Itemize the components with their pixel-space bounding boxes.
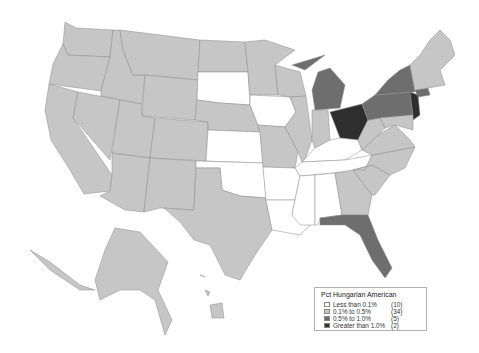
- state-new-england: [410, 30, 455, 90]
- state-alaska: [95, 228, 172, 335]
- legend-swatch: [324, 309, 330, 314]
- legend-swatch: [324, 323, 330, 328]
- legend-count: (2): [391, 322, 405, 329]
- legend-count: (5): [391, 315, 405, 322]
- state-kansas: [206, 130, 263, 163]
- state-wisconsin: [275, 65, 306, 97]
- state-washington: [63, 22, 113, 57]
- state-new-mexico: [144, 158, 196, 212]
- legend-item: 0.1% to 0.5% (34): [324, 308, 405, 315]
- legend-title: Pct Hungarian American: [321, 291, 396, 298]
- state-montana: [120, 30, 200, 80]
- legend-count: (34): [391, 308, 405, 315]
- legend: Pct Hungarian American Less than 0.1% (1…: [314, 287, 427, 331]
- state-hawaii: [200, 275, 224, 318]
- legend-count: (10): [391, 301, 405, 308]
- legend-swatch: [324, 316, 330, 321]
- legend-item: 0.5% to 1.0% (5): [324, 315, 405, 322]
- legend-label: Greater than 1.0%: [333, 322, 391, 329]
- legend-item: Less than 0.1% (10): [324, 301, 405, 308]
- state-colorado: [150, 118, 208, 161]
- state-wyoming: [142, 75, 198, 120]
- state-north-dakota: [198, 40, 248, 72]
- legend-swatch: [324, 302, 330, 307]
- alaska-aleutians: [30, 250, 95, 290]
- state-new-york: [375, 65, 415, 95]
- state-florida: [320, 215, 392, 278]
- state-south-dakota: [197, 72, 250, 105]
- state-arkansas: [263, 167, 300, 200]
- legend-item: Greater than 1.0% (2): [324, 322, 405, 329]
- legend-label: Less than 0.1%: [333, 301, 391, 308]
- legend-label: 0.1% to 0.5%: [333, 308, 391, 315]
- legend-label: 0.5% to 1.0%: [333, 315, 391, 322]
